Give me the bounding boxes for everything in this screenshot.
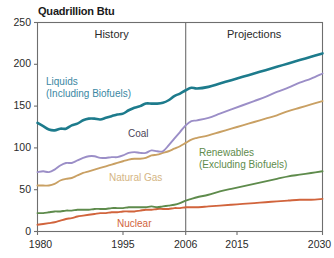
energy-consumption-chart: Quadrillion Btu 050100150200250 19801995… — [0, 0, 334, 258]
renewables-label-line2: (Excluding Biofuels) — [199, 159, 287, 171]
series-line-natural — [38, 101, 323, 186]
renewables-label-line1: Renewables — [199, 147, 287, 159]
renewables-label: Renewables(Excluding Biofuels) — [199, 147, 287, 170]
x-tick-label: 2015 — [215, 238, 259, 250]
liquids-label-line2: (Including Biofuels) — [46, 88, 131, 100]
x-tick-label: 1980 — [19, 238, 63, 250]
coal-label: Coal — [128, 128, 149, 140]
liquids-label-line1: Liquids — [46, 76, 131, 88]
coal-label-line1: Coal — [128, 128, 149, 140]
natural-gas-label-line1: Natural Gas — [109, 172, 162, 184]
y-tick-label: 50 — [1, 183, 31, 195]
nuclear-label: Nuclear — [117, 218, 151, 230]
nuclear-label-line1: Nuclear — [117, 218, 151, 230]
natural-gas-label: Natural Gas — [109, 172, 162, 184]
y-tick-label: 100 — [1, 141, 31, 153]
x-tick-label: 2006 — [164, 238, 208, 250]
series-line-renewables — [38, 171, 323, 213]
y-tick-label: 0 — [1, 225, 31, 237]
region-label-projections: Projections — [219, 28, 289, 40]
y-tick-label: 150 — [1, 99, 31, 111]
x-tick-label: 1995 — [101, 238, 145, 250]
region-label-history: History — [84, 28, 140, 40]
y-tick-label: 200 — [1, 57, 31, 69]
x-tick-label: 2030 — [298, 238, 334, 250]
y-tick-label: 250 — [1, 16, 31, 28]
liquids-label: Liquids(Including Biofuels) — [46, 76, 131, 99]
